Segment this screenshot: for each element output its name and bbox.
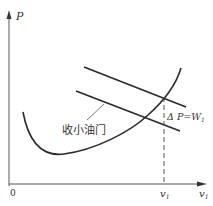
power-speed-diagram: P 0 v1 v1 Δ P=W1 收小油门 <box>0 0 213 206</box>
available-power-line-full <box>84 67 186 107</box>
y-axis-arrow-icon <box>7 10 12 19</box>
x-axis-arrow-icon <box>197 182 207 187</box>
y-axis-label: P <box>15 10 24 23</box>
origin-label: 0 <box>10 188 16 198</box>
delta-p-annotation: Δ P=W1 <box>166 111 205 123</box>
v1-marker-label: v1 <box>160 188 169 200</box>
x-axis-label: v1 <box>199 188 208 200</box>
required-power-curve <box>23 68 181 154</box>
throttle-leader-line <box>87 104 104 120</box>
throttle-label: 收小油门 <box>62 123 106 137</box>
